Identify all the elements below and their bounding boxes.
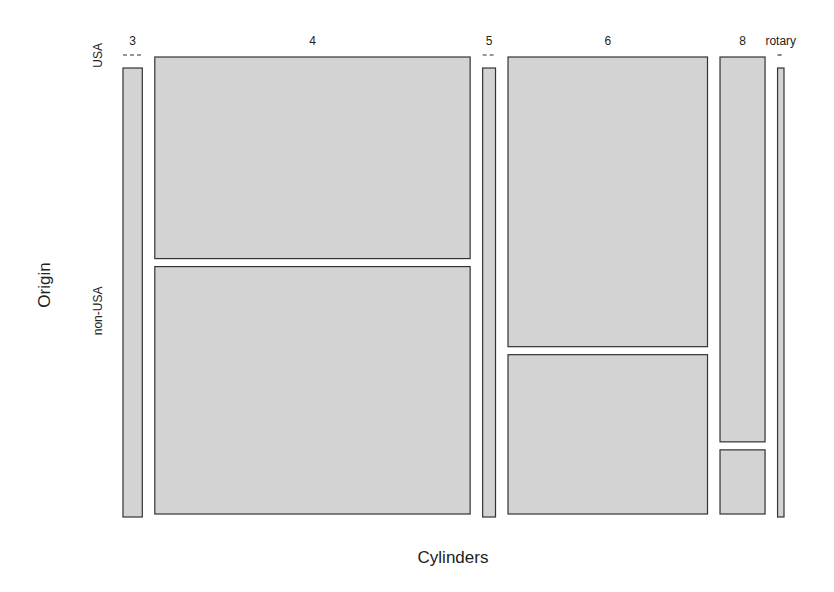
y-tick-label: USA <box>91 43 105 68</box>
mosaic-tile-rotary-non-USA <box>778 68 784 517</box>
mosaic-tile-6-USA <box>508 57 707 347</box>
x-tick-label: rotary <box>765 34 796 48</box>
mosaic-tile-8-USA <box>720 57 765 442</box>
x-tick-label: 4 <box>309 34 316 48</box>
tiles-layer <box>123 55 784 517</box>
mosaic-tile-5-non-USA <box>483 68 496 517</box>
x-tick-label: 5 <box>486 34 493 48</box>
mosaic-tile-8-non-USA <box>720 450 765 514</box>
x-tick-labels: 34568rotary <box>129 34 796 48</box>
mosaic-tile-4-non-USA <box>155 267 470 514</box>
y-tick-labels: USAnon-USA <box>91 43 105 335</box>
mosaic-chart: 34568rotary USAnon-USA Cylinders Origin <box>0 0 834 592</box>
x-tick-label: 3 <box>129 34 136 48</box>
x-tick-label: 8 <box>739 34 746 48</box>
mosaic-tile-6-non-USA <box>508 355 707 514</box>
x-tick-label: 6 <box>604 34 611 48</box>
y-axis-title: Origin <box>35 262 54 307</box>
x-axis-title: Cylinders <box>418 548 489 567</box>
mosaic-tile-4-USA <box>155 57 470 259</box>
mosaic-tile-3-non-USA <box>123 68 142 517</box>
y-tick-label: non-USA <box>91 287 105 336</box>
